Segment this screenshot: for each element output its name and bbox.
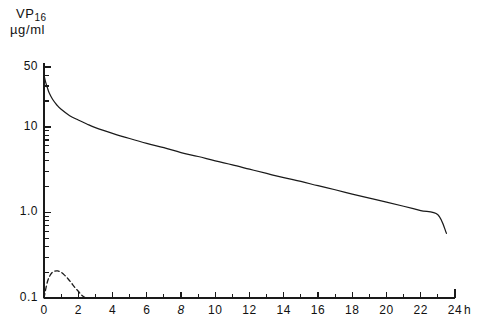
x-tick-label: 18 xyxy=(337,303,367,317)
curves-group xyxy=(44,75,446,298)
curve-plasma-concentration xyxy=(44,75,446,233)
chart-plot-area xyxy=(0,0,499,335)
chart-figure: VP16 µg/ml 50101.00.10246810121416182022… xyxy=(0,0,499,335)
y-tick-label: 0.1 xyxy=(6,290,38,304)
y-tick-label: 10 xyxy=(6,119,38,133)
axes-group xyxy=(44,63,455,298)
x-tick-label: 4 xyxy=(98,303,128,317)
x-tick-label: 14 xyxy=(269,303,299,317)
x-tick-label: 8 xyxy=(166,303,196,317)
x-tick-label: 6 xyxy=(132,303,162,317)
x-tick-label: 10 xyxy=(200,303,230,317)
x-tick-label: 12 xyxy=(235,303,265,317)
x-tick-label: 2 xyxy=(63,303,93,317)
y-tick-label: 1.0 xyxy=(6,204,38,218)
x-axis-unit-label: h xyxy=(464,303,471,317)
x-tick-label: 20 xyxy=(372,303,402,317)
x-tick-label: 0 xyxy=(29,303,59,317)
y-tick-label: 50 xyxy=(6,59,38,73)
x-tick-label: 22 xyxy=(406,303,436,317)
curve-metabolite-concentration xyxy=(44,271,87,298)
x-tick-label: 16 xyxy=(303,303,333,317)
